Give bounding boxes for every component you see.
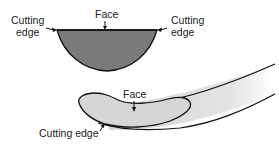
cutting-edge-label-side-view: Cutting edge — [39, 128, 99, 139]
cutting-edge-left-label-line1: Cutting — [11, 15, 44, 26]
curette-diagram: Face Cutting edge Cutting edge Face Cutt… — [0, 0, 279, 149]
left-cutting-edge-arrow-icon — [52, 28, 57, 33]
blade-cross-section — [57, 30, 157, 71]
instrument-side-view — [79, 64, 275, 130]
cross-section-shape — [57, 30, 157, 71]
face-label-side-view: Face — [123, 89, 146, 100]
cutting-edge-right-label-line2: edge — [171, 27, 194, 38]
cutting-edge-right-label-line1: Cutting — [171, 15, 204, 26]
right-cutting-edge-arrow-icon — [157, 28, 162, 33]
face-label-cross-section: Face — [95, 9, 118, 20]
cutting-edge-left-label-line2: edge — [16, 27, 39, 38]
